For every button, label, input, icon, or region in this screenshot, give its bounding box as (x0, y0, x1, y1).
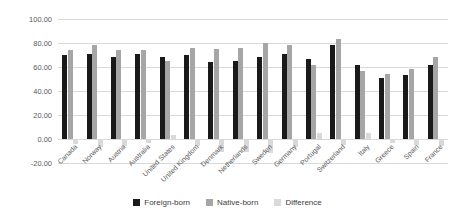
difference-bar-portugal (317, 133, 322, 139)
difference-bar-united-states (171, 135, 176, 139)
native-born-bar-switzerland (336, 39, 341, 139)
foreign-born-bar-netherlands (233, 61, 238, 139)
x-axis-label-france: France (423, 143, 443, 163)
x-axis-label-canada: Canada (56, 143, 78, 165)
foreign-born-bar-greece (379, 78, 384, 139)
legend-swatch-native-born (206, 199, 213, 206)
x-axis-label-greece: Greece (374, 143, 395, 164)
native-born-bar-austria (116, 50, 121, 139)
y-axis-tick-label: -20.00 (2, 159, 52, 168)
y-axis-tick-label: 40.00 (2, 87, 52, 96)
foreign-born-bar-denmark (208, 62, 213, 139)
gridline-100 (58, 19, 448, 20)
native-born-bar-united-kingdom (190, 48, 195, 139)
y-axis-tick-label: 20.00 (2, 111, 52, 120)
legend-swatch-foreign-born (133, 199, 140, 206)
y-axis-tick-label: 0.00 (2, 135, 52, 144)
legend-label: Native-born (217, 198, 258, 207)
foreign-born-bar-norway (87, 54, 92, 139)
x-axis-label-italy: Italy (357, 143, 371, 157)
foreign-born-bar-united-states (160, 57, 165, 139)
native-born-bar-norway (92, 45, 97, 139)
foreign-born-bar-portugal (306, 59, 311, 139)
chart-legend: Foreign-bornNative-bornDifference (0, 198, 455, 207)
y-axis-tick-label: 80.00 (2, 39, 52, 48)
native-born-bar-united-states (165, 61, 170, 139)
native-born-bar-france (433, 57, 438, 139)
native-born-bar-italy (360, 71, 365, 139)
foreign-born-bar-canada (62, 55, 67, 139)
x-axis-label-germany: Germany (272, 143, 297, 168)
y-axis-tick-label: 100.00 (2, 15, 52, 24)
legend-item-difference: Difference (274, 198, 321, 207)
bar-chart: 100.0080.0060.0040.0020.000.00-20.00Cana… (0, 0, 455, 222)
foreign-born-bar-austria (111, 57, 116, 139)
foreign-born-bar-switzerland (330, 45, 335, 139)
native-born-bar-canada (68, 50, 73, 139)
foreign-born-bar-france (428, 65, 433, 139)
difference-bar-italy (366, 133, 371, 139)
y-axis-tick-label: 60.00 (2, 63, 52, 72)
foreign-born-bar-australia (135, 54, 140, 139)
native-born-bar-sweden (263, 43, 268, 139)
foreign-born-bar-sweden (257, 57, 262, 139)
x-axis-label-norway: Norway (81, 143, 103, 165)
native-born-bar-netherlands (238, 48, 243, 139)
foreign-born-bar-italy (355, 65, 360, 139)
legend-item-foreign-born: Foreign-born (133, 198, 190, 207)
difference-bar-australia (146, 139, 151, 143)
native-born-bar-portugal (311, 65, 316, 139)
native-born-bar-germany (287, 45, 292, 139)
native-born-bar-denmark (214, 49, 219, 139)
legend-item-native-born: Native-born (206, 198, 258, 207)
x-axis-label-austria: Austria (107, 143, 127, 163)
gridline-80 (58, 43, 448, 44)
foreign-born-bar-spain (403, 75, 408, 139)
foreign-born-bar-united-kingdom (184, 55, 189, 139)
legend-label: Foreign-born (144, 198, 190, 207)
legend-swatch-difference (274, 199, 281, 206)
legend-label: Difference (285, 198, 321, 207)
native-born-bar-australia (141, 50, 146, 139)
x-axis-label-spain: Spain (402, 143, 420, 161)
difference-bar-greece (390, 139, 395, 143)
native-born-bar-spain (409, 69, 414, 139)
foreign-born-bar-germany (282, 54, 287, 139)
native-born-bar-greece (385, 74, 390, 139)
